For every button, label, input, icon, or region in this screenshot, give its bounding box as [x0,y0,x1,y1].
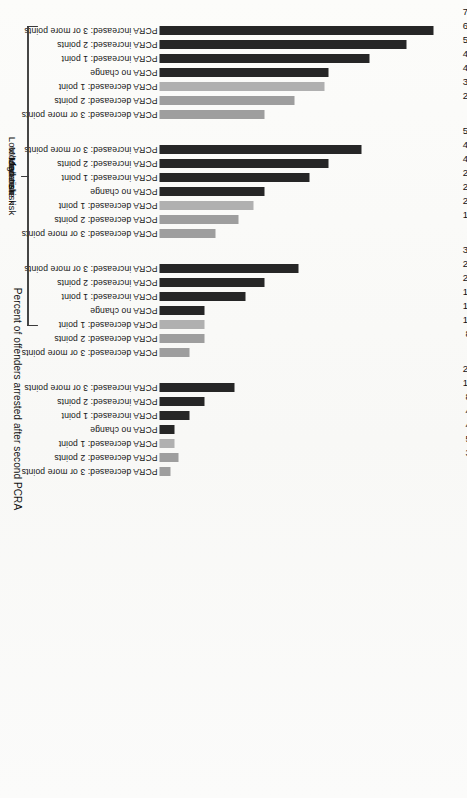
bar[interactable] [159,173,309,182]
category-label: PCRA increased: 2 points [39,278,159,287]
bar-slot: 56% [159,54,459,63]
category-label: PCRA no change [39,187,159,196]
category-label-group-2: PCRA increased: 3 or more pointsPCRA inc… [39,264,159,357]
category-label-group-3: PCRA increased: 3 or more pointsPCRA inc… [39,383,159,476]
plot-area: 73%66%56%45%44%36%28%54%45%40%28%25%21%1… [159,26,459,772]
category-label: PCRA increased: 2 points [39,159,159,168]
category-label: PCRA decreased: 3 or more points [39,110,159,119]
category-label: PCRA decreased: 2 points [39,96,159,105]
bar[interactable] [159,411,189,420]
bar-slot: 5% [159,453,459,462]
bar-slot: 8% [159,411,459,420]
bar-slot: 21% [159,215,459,224]
bar[interactable] [159,278,264,287]
bar[interactable] [159,26,433,35]
category-label: PCRA decreased: 2 points [39,453,159,462]
bar[interactable] [159,397,204,406]
bar[interactable] [159,82,324,91]
bar[interactable] [159,68,328,77]
bar-slot: 12% [159,306,459,315]
category-label: PCRA decreased: 1 point [39,320,159,329]
category-label: PCRA increased: 2 points [39,397,159,406]
bar-group-0: 73%66%56%45%44%36%28% [159,26,459,119]
bar[interactable] [159,201,253,210]
bar-slot: 8% [159,348,459,357]
bar-slot: 4% [159,425,459,434]
category-label: PCRA increased: 3 or more points [39,26,159,35]
category-label: PCRA decreased: 3 or more points [39,229,159,238]
bar-slot: 28% [159,110,459,119]
bar-slot: 25% [159,201,459,210]
bar[interactable] [159,145,362,154]
bar[interactable] [159,306,204,315]
bar-slot: 36% [159,96,459,105]
bar-slot: 12% [159,334,459,343]
bar[interactable] [159,40,407,49]
bar-group-2: 37%28%23%12%12%12%8% [159,264,459,357]
bar[interactable] [159,110,264,119]
category-label: PCRA decreased: 2 points [39,215,159,224]
category-label: PCRA decreased: 2 points [39,334,159,343]
category-label-group-0: PCRA increased: 3 or more pointsPCRA inc… [39,26,159,119]
bar-slot: 54% [159,145,459,154]
category-label: PCRA increased: 3 or more points [39,264,159,273]
category-label: PCRA no change [39,425,159,434]
bar-slot: 12% [159,320,459,329]
bar-group-3: 20%12%8%4%4%5%3% [159,383,459,476]
bar-group-1: 54%45%40%28%25%21%15% [159,145,459,238]
bar-slot: 66% [159,40,459,49]
bar[interactable] [159,292,245,301]
category-labels: PCRA increased: 3 or more pointsPCRA inc… [39,26,159,772]
category-label: PCRA no change [39,306,159,315]
bar-value-label: 28% [450,102,467,115]
bar-slot: 15% [159,229,459,238]
bar-value-label: 15% [450,221,467,234]
category-label: PCRA increased: 1 point [39,173,159,182]
bar-slot: 73% [159,26,459,35]
bar-slot: 45% [159,68,459,77]
bar-slot: 45% [159,159,459,168]
axis-title: Percent of offenders arrested after seco… [11,0,22,798]
category-label: PCRA decreased: 1 point [39,82,159,91]
bar[interactable] [159,467,170,476]
bar[interactable] [159,334,204,343]
group-brace-3 [27,26,37,326]
bar-slot: 40% [159,173,459,182]
category-label: PCRA increased: 1 point [39,292,159,301]
bar-value-label: 8% [453,340,467,353]
bar-slot: 37% [159,264,459,273]
bar-slot: 23% [159,292,459,301]
category-label-group-1: PCRA increased: 3 or more pointsPCRA inc… [39,145,159,238]
category-label: PCRA decreased: 3 or more points [39,348,159,357]
bar[interactable] [159,348,189,357]
bar[interactable] [159,425,174,434]
category-label: PCRA increased: 2 points [39,40,159,49]
category-label: PCRA increased: 3 or more points [39,383,159,392]
bar[interactable] [159,159,328,168]
bar-value-label: 3% [453,459,467,472]
bar[interactable] [159,54,369,63]
bar-slot: 4% [159,439,459,448]
bar-slot: 44% [159,82,459,91]
bar[interactable] [159,264,298,273]
bar-groups: 73%66%56%45%44%36%28%54%45%40%28%25%21%1… [159,26,459,772]
bar[interactable] [159,187,264,196]
bar[interactable] [159,383,234,392]
bar[interactable] [159,229,215,238]
bar-slot: 28% [159,278,459,287]
bar[interactable] [159,453,178,462]
category-label: PCRA increased: 1 point [39,54,159,63]
category-label: PCRA decreased: 1 point [39,439,159,448]
bar[interactable] [159,215,238,224]
category-label: PCRA increased: 1 point [39,411,159,420]
category-label: PCRA decreased: 1 point [39,201,159,210]
bar[interactable] [159,96,294,105]
rotated-figure-stage: 73%66%56%45%44%36%28%54%45%40%28%25%21%1… [0,0,467,798]
bar-slot: 20% [159,383,459,392]
bar[interactable] [159,320,204,329]
bar-slot: 28% [159,187,459,196]
bar[interactable] [159,439,174,448]
category-label: PCRA no change [39,68,159,77]
bar-slot: 12% [159,397,459,406]
category-label: PCRA increased: 3 or more points [39,145,159,154]
